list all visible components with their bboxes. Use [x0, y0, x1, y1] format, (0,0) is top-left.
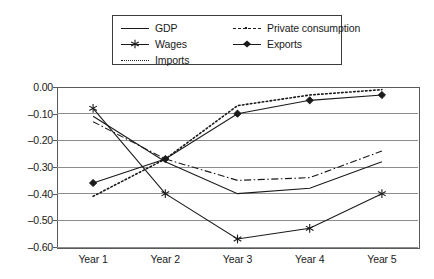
x-axis-tick-label: Year 4 — [280, 253, 340, 265]
y-axis-tick-label: –0.10 — [5, 109, 53, 119]
data-point-marker — [306, 97, 313, 104]
asterisk-marker-line-icon — [120, 38, 150, 50]
legend-item-wages: Wages — [120, 37, 187, 51]
legend-label-gdp: GDP — [155, 22, 177, 34]
legend-item-imports: Imports — [120, 53, 189, 67]
legend-item-gdp: GDP — [120, 21, 177, 35]
diamond-marker-line-icon — [232, 38, 262, 50]
line-chart: GDP Private consumption Wages — [0, 0, 434, 279]
legend-label-private-consumption: Private consumption — [267, 22, 360, 34]
x-axis-tick-label: Year 2 — [135, 253, 195, 265]
dash-dot-line-icon — [232, 22, 262, 34]
x-axis-tick-label: Year 5 — [352, 253, 412, 265]
y-axis-tick-label: –0.20 — [5, 135, 53, 145]
plot-canvas — [57, 87, 418, 247]
solid-line-icon — [120, 22, 150, 34]
data-point-marker — [234, 110, 241, 117]
dotted-line-icon — [120, 54, 150, 66]
data-point-marker — [378, 91, 385, 98]
chart-legend: GDP Private consumption Wages — [112, 15, 342, 65]
y-axis-tick-label: –0.50 — [5, 215, 53, 225]
y-axis-tick-label: –0.40 — [5, 189, 53, 199]
legend-label-imports: Imports — [155, 54, 189, 66]
series-line-private-consumption — [93, 122, 382, 181]
data-point-marker — [90, 179, 97, 186]
legend-item-exports: Exports — [232, 37, 302, 51]
y-axis: 0.00–0.10–0.20–0.30–0.40–0.50–0.60 — [0, 0, 53, 279]
x-axis-tick-label: Year 1 — [63, 253, 123, 265]
legend-label-exports: Exports — [267, 38, 302, 50]
y-axis-tick-label: –0.30 — [5, 162, 53, 172]
legend-item-private-consumption: Private consumption — [232, 21, 360, 35]
x-axis-tick-label: Year 3 — [208, 253, 268, 265]
y-axis-tick-label: –0.60 — [5, 242, 53, 252]
series-line-exports — [93, 95, 382, 183]
y-axis-tick-label: 0.00 — [5, 82, 53, 92]
series-line-gdp — [93, 116, 382, 193]
legend-label-wages: Wages — [155, 38, 187, 50]
